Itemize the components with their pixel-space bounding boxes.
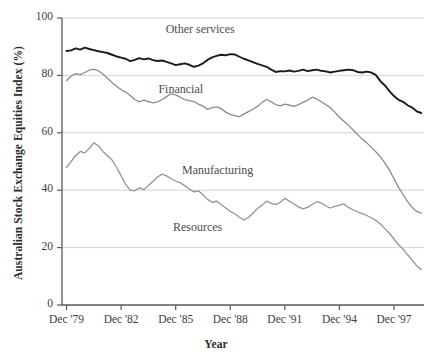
x-axis-title: Year [0, 338, 432, 350]
y-axis-tick-label: 100 [23, 10, 53, 22]
y-axis-tick-label: 40 [23, 182, 53, 194]
x-axis-tick-label: Dec '79 [37, 313, 97, 325]
y-axis-tick-label: 20 [23, 240, 53, 252]
x-axis-tick-label: Dec '85 [146, 313, 206, 325]
y-axis-title: Australian Stock Exchange Equities Index… [12, 8, 30, 318]
x-axis-tick-label: Dec '82 [91, 313, 151, 325]
series-label-financial: Financial [158, 82, 203, 97]
series-line-other-services [67, 48, 422, 113]
y-axis-tick-label: 0 [23, 297, 53, 309]
series-label-other-services: Other services [166, 22, 235, 37]
series-label-resources: Resources [173, 220, 222, 235]
x-axis-tick-label: Dec '91 [255, 313, 315, 325]
x-axis-tick-label: Dec '94 [309, 313, 369, 325]
y-axis-tick-label: 80 [23, 67, 53, 79]
chart-container: Australian Stock Exchange Equities Index… [0, 0, 432, 364]
series-line-financial [67, 69, 422, 213]
x-axis-tick-label: Dec '97 [364, 313, 424, 325]
chart-plot-area [0, 0, 432, 364]
x-axis-tick-label: Dec '88 [200, 313, 260, 325]
y-axis-tick-label: 60 [23, 125, 53, 137]
series-label-manufacturing: Manufacturing [182, 163, 253, 178]
